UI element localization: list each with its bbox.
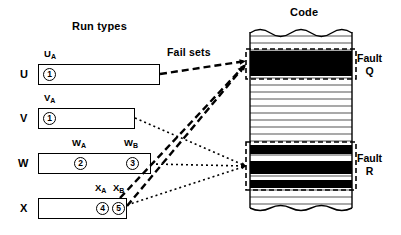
connector-arrowhead-u-to-fault-q — [239, 59, 246, 65]
fault-band — [250, 180, 352, 188]
connector-w-to-fault-r — [151, 164, 246, 166]
connectors — [120, 59, 246, 206]
connector-x-to-fault-q — [127, 64, 246, 206]
fault-q-bands — [250, 51, 352, 76]
diagram-root: Run types Code Fail sets Fault Q Fault R… — [0, 0, 401, 235]
connector-x-inner-to-fault-q — [120, 66, 244, 198]
fault-r-bands — [250, 145, 352, 188]
fault-band — [250, 145, 352, 154]
connector-v-to-fault-r — [135, 118, 246, 166]
connector-u-to-fault-q — [160, 61, 246, 74]
fault-band — [250, 161, 352, 174]
diagram-graphics — [0, 0, 401, 235]
fault-band — [250, 51, 352, 76]
